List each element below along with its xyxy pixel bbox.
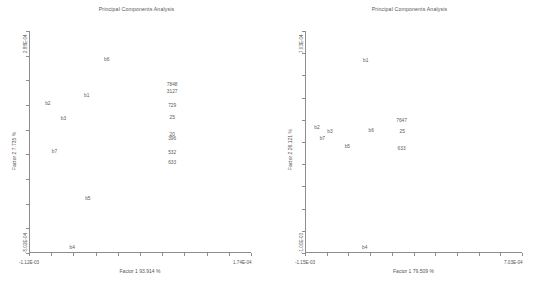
y-axis-tick: [26, 179, 29, 180]
data-point-label: 729: [168, 103, 176, 108]
x-axis-tick: [305, 253, 306, 256]
x-axis-min-tick-label: -1.15E-03: [295, 260, 315, 265]
x-axis-label: Factor 1 93.914 %: [29, 268, 251, 274]
y-axis-tick: [26, 31, 29, 32]
chart-title: Principal Components Analysis: [273, 6, 546, 12]
data-point-label: b4: [362, 246, 367, 251]
y-axis-tick: [26, 154, 29, 155]
y-axis-tick: [302, 120, 305, 121]
data-point-label: b3: [61, 116, 66, 121]
y-axis-min-tick-label: -1.00E-03: [299, 233, 304, 253]
y-axis-tick: [302, 253, 305, 254]
data-point-label: 633: [168, 161, 176, 166]
x-axis-tick: [29, 253, 30, 256]
y-axis-tick: [302, 164, 305, 165]
data-point-label: b2: [314, 125, 319, 130]
data-point-label: b4: [70, 246, 75, 251]
x-axis-tick: [414, 253, 415, 256]
y-axis-tick: [302, 31, 305, 32]
x-axis-tick: [207, 253, 208, 256]
data-point-label: 633: [398, 146, 406, 151]
x-axis-tick: [392, 253, 393, 256]
y-axis-tick: [302, 142, 305, 143]
x-axis-tick: [162, 253, 163, 256]
x-axis-tick: [251, 253, 252, 256]
y-axis-label: Factor 2 26.121 %: [287, 129, 293, 170]
y-axis-tick: [26, 105, 29, 106]
x-axis-max-tick-label: 7.03E-04: [504, 260, 523, 265]
pca-panel-right: Principal Components Analysis b17647b2b3…: [273, 0, 546, 287]
x-axis-tick: [435, 253, 436, 256]
y-axis-tick: [26, 204, 29, 205]
data-point-label: b1: [84, 94, 89, 99]
y-axis-tick: [302, 209, 305, 210]
data-point-label: 25: [170, 116, 175, 121]
x-axis-tick: [327, 253, 328, 256]
y-axis-tick: [302, 75, 305, 76]
y-axis-max-tick-label: 7.03E-04: [299, 34, 304, 53]
data-point-label: b6: [104, 57, 109, 62]
data-point-label: b5: [345, 144, 350, 149]
data-point-label: b6: [369, 129, 374, 134]
data-point-label: 3127: [167, 89, 178, 94]
data-point-label: b7: [320, 136, 325, 141]
data-point-label: b2: [45, 101, 50, 106]
data-point-label: 396: [168, 137, 176, 142]
y-axis-label: Factor 2 7.735 %: [11, 132, 17, 170]
x-axis-tick: [522, 253, 523, 256]
y-axis-tick: [26, 80, 29, 81]
y-axis-tick: [26, 130, 29, 131]
data-point-label: b1: [363, 59, 368, 64]
x-axis-label: Factor 1 79.509 %: [305, 268, 522, 274]
x-axis-tick: [140, 253, 141, 256]
scatter-plot-area-right: b17647b2b3b625b7b5633b4: [305, 31, 522, 253]
x-axis-tick: [229, 253, 230, 256]
data-point-label: 7848: [167, 83, 178, 88]
data-point-label: b3: [327, 130, 332, 135]
data-point-label: 25: [400, 130, 405, 135]
scatter-plot-area-left: b678483127b1b2729b32520396b7532633b5b4: [29, 31, 251, 253]
y-axis-tick: [26, 228, 29, 229]
x-axis-tick: [184, 253, 185, 256]
y-axis-tick: [302, 98, 305, 99]
x-axis-tick: [73, 253, 74, 256]
x-axis-tick: [118, 253, 119, 256]
x-axis-tick: [51, 253, 52, 256]
y-axis-line: [305, 31, 306, 253]
y-axis-max-tick-label: 2.88E-04: [23, 34, 28, 53]
y-axis-tick: [302, 231, 305, 232]
x-axis-tick: [500, 253, 501, 256]
data-point-label: 7647: [396, 119, 407, 124]
x-axis-tick: [96, 253, 97, 256]
data-point-label: b5: [85, 196, 90, 201]
y-axis-min-tick-label: -5.02E-04: [23, 233, 28, 253]
x-axis-tick: [348, 253, 349, 256]
x-axis-tick: [457, 253, 458, 256]
y-axis-tick: [302, 186, 305, 187]
pca-figure: Principal Components Analysis b678483127…: [0, 0, 546, 287]
data-point-label: b7: [52, 150, 57, 155]
x-axis-min-tick-label: -1.12E-03: [19, 260, 39, 265]
chart-title: Principal Components Analysis: [0, 6, 273, 12]
x-axis-max-tick-label: 1.74E-04: [233, 260, 252, 265]
x-axis-tick: [370, 253, 371, 256]
pca-panel-left: Principal Components Analysis b678483127…: [0, 0, 273, 287]
y-axis-tick: [26, 56, 29, 57]
y-axis-tick: [302, 53, 305, 54]
y-axis-tick: [26, 253, 29, 254]
y-axis-line: [29, 31, 30, 253]
x-axis-tick: [479, 253, 480, 256]
data-point-label: 532: [168, 150, 176, 155]
